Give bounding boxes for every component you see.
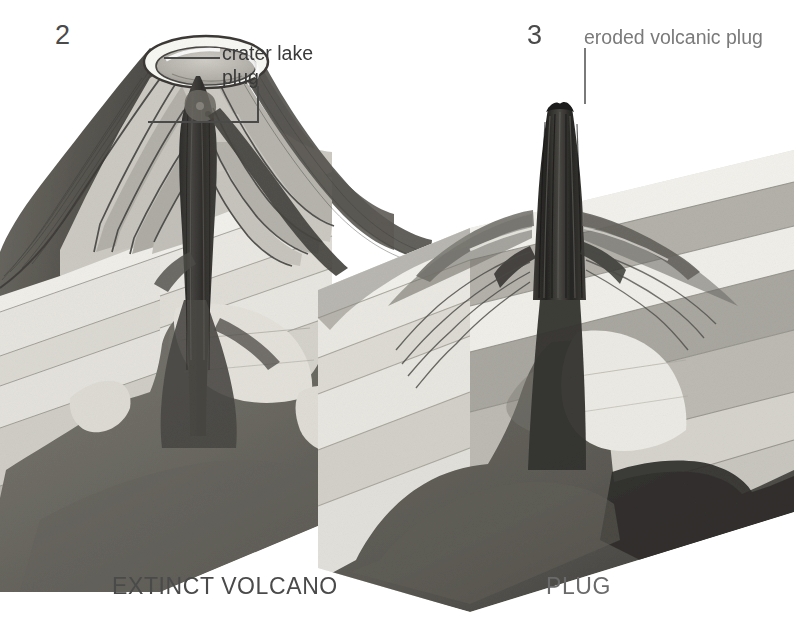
callout-eroded-volcanic-plug: eroded volcanic plug [584,26,763,49]
caption-extinct-volcano: EXTINCT VOLCANO [112,573,338,600]
callout-plug: plug [222,66,259,89]
panel-number-3: 3 [527,20,542,51]
callout-crater-lake: crater lake [222,42,313,65]
caption-plug: PLUG [546,573,611,600]
geological-block-diagram [0,0,794,633]
panel-number-2: 2 [55,20,70,51]
figure-canvas: 2 crater lake plug 3 eroded volcanic plu… [0,0,794,633]
